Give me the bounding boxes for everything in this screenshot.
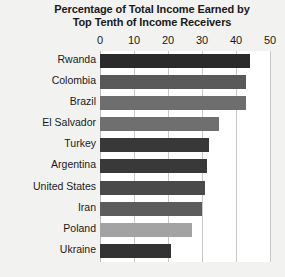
bar-brazil (100, 96, 246, 110)
x-axis-tick-0: 0 (97, 34, 103, 46)
bar-poland (100, 223, 192, 237)
bar-row: Brazil (0, 93, 285, 114)
x-axis-tick-10: 10 (128, 34, 140, 46)
bar-colombia (100, 75, 246, 89)
bar-row: United States (0, 178, 285, 199)
category-label-turkey: Turkey (64, 137, 96, 149)
x-axis-tick-20: 20 (162, 34, 174, 46)
category-label-ukraine: Ukraine (60, 243, 96, 255)
bar-iran (100, 202, 202, 216)
bar-row: Ukraine (0, 241, 285, 262)
bar-row: Rwanda (0, 51, 285, 72)
chart-title: Percentage of Total Income Earned by Top… (28, 3, 276, 29)
category-label-iran: Iran (78, 201, 96, 213)
x-axis-tick-labels: 01020304050 (0, 34, 285, 49)
bar-el-salvador (100, 117, 219, 131)
category-label-brazil: Brazil (70, 95, 96, 107)
bar-argentina (100, 159, 207, 173)
bar-row: Colombia (0, 72, 285, 93)
chart-title-line-1: Percentage of Total Income Earned by (54, 3, 249, 15)
category-label-united-states: United States (33, 180, 96, 192)
bar-row: Iran (0, 199, 285, 220)
x-axis-tick-50: 50 (264, 34, 276, 46)
category-label-rwanda: Rwanda (57, 53, 96, 65)
category-label-poland: Poland (63, 222, 96, 234)
bar-chart: Percentage of Total Income Earned by Top… (0, 0, 285, 277)
category-label-el-salvador: El Salvador (42, 116, 96, 128)
category-label-argentina: Argentina (51, 158, 96, 170)
x-axis-tick-40: 40 (230, 34, 242, 46)
bar-row: Argentina (0, 156, 285, 177)
bar-row: El Salvador (0, 114, 285, 135)
bar-rows: RwandaColombiaBrazilEl SalvadorTurkeyArg… (0, 51, 285, 262)
bar-ukraine (100, 244, 171, 258)
bar-turkey (100, 138, 209, 152)
bar-row: Turkey (0, 135, 285, 156)
bar-united-states (100, 181, 205, 195)
bar-row: Poland (0, 220, 285, 241)
x-axis-tick-30: 30 (196, 34, 208, 46)
bar-rwanda (100, 54, 250, 68)
category-label-colombia: Colombia (52, 74, 96, 86)
chart-title-line-2: Top Tenth of Income Receivers (28, 16, 276, 29)
